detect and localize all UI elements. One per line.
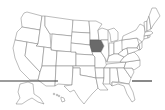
- state-north-dakota[interactable]: [72, 20, 90, 33]
- state-michigan[interactable]: [108, 28, 118, 42]
- state-maine[interactable]: [149, 8, 160, 29]
- state-wisconsin[interactable]: [98, 28, 108, 40]
- state-kansas[interactable]: [76, 54, 95, 66]
- us-map: [0, 0, 165, 110]
- state-florida[interactable]: [112, 82, 135, 102]
- state-montana[interactable]: [45, 16, 73, 36]
- state-colorado[interactable]: [56, 51, 76, 66]
- state-tennessee[interactable]: [104, 62, 126, 68]
- state-wyoming[interactable]: [51, 34, 72, 52]
- state-hawaii[interactable]: [53, 93, 65, 102]
- state-alaska[interactable]: [16, 82, 44, 104]
- state-arkansas[interactable]: [95, 68, 104, 78]
- state-mississippi[interactable]: [103, 68, 110, 84]
- state-new-mexico[interactable]: [55, 66, 73, 86]
